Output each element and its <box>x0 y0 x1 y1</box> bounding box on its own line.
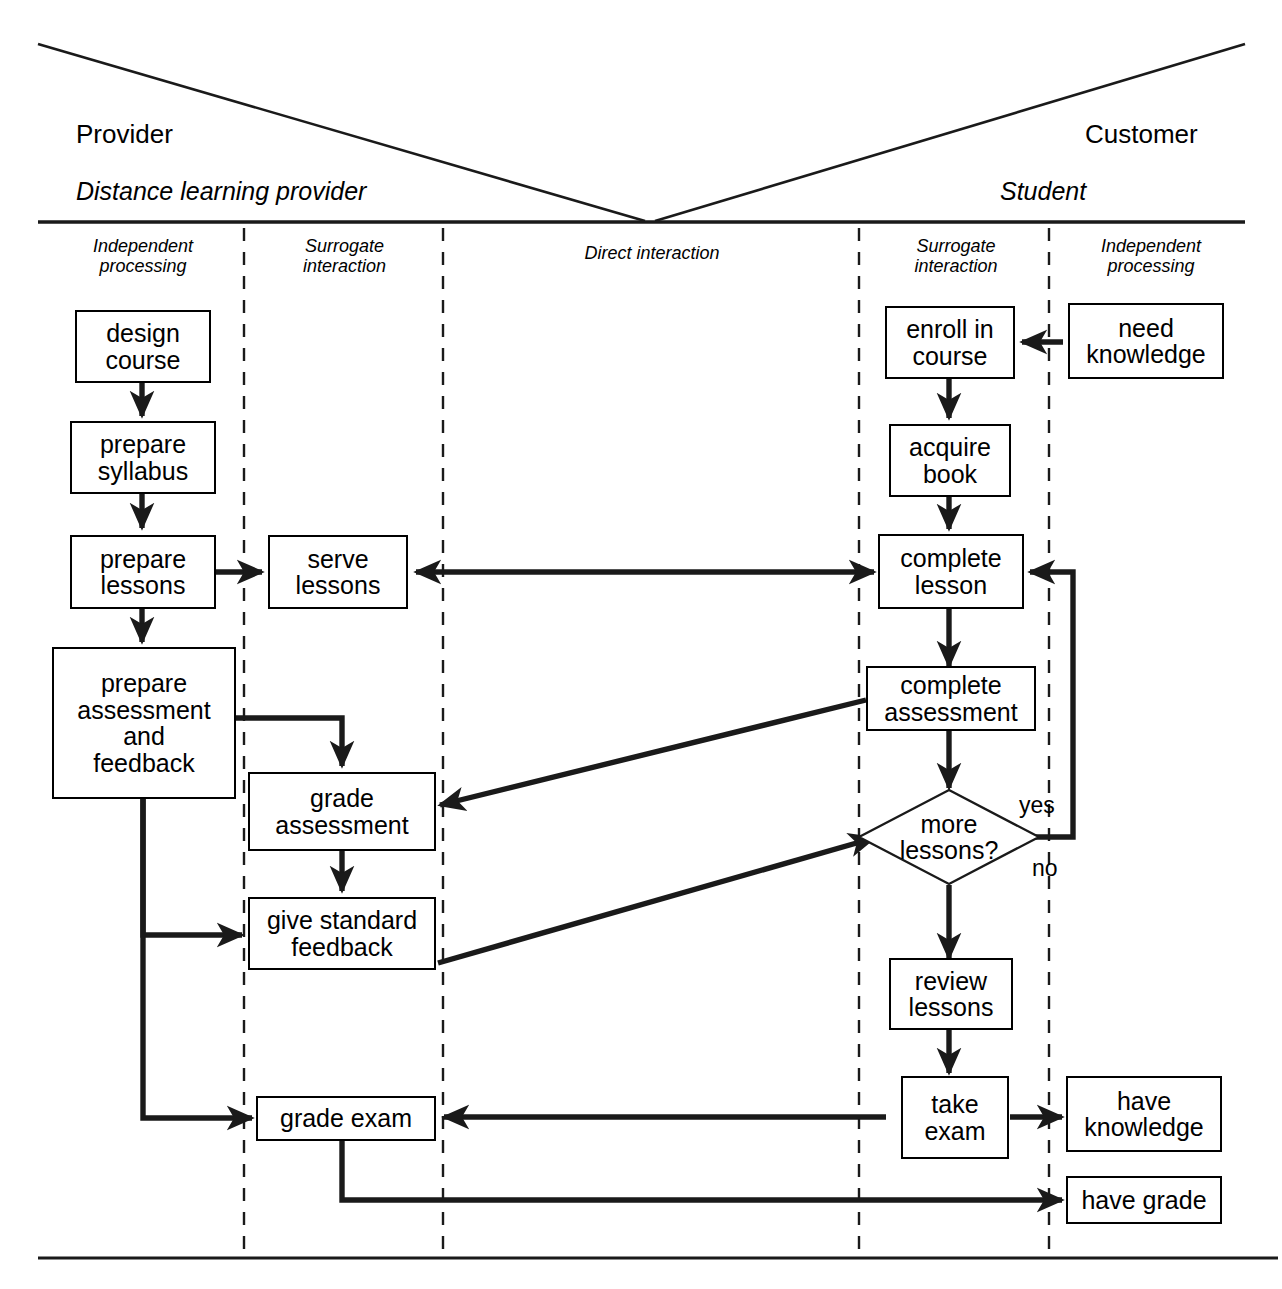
node-grade-assessment[interactable]: grade assessment <box>248 772 436 851</box>
node-give-standard-feedback[interactable]: give standard feedback <box>248 897 436 970</box>
node-grade-exam[interactable]: grade exam <box>256 1096 436 1141</box>
arrow-give-feedback-to-more-lessons <box>438 838 874 963</box>
node-complete-lesson[interactable]: complete lesson <box>878 534 1024 609</box>
actor-label-distance-learning-provider: Distance learning provider <box>76 177 366 205</box>
zone-label-customer-independent-processing: Independent processing <box>1056 236 1246 276</box>
actor-label-student: Student <box>1000 177 1086 205</box>
zone-label-direct-interaction: Direct interaction <box>452 243 852 263</box>
service-blueprint-diagram: Provider Customer Distance learning prov… <box>0 0 1282 1289</box>
node-have-knowledge[interactable]: have knowledge <box>1066 1076 1222 1152</box>
zone-label-provider-surrogate-interaction: Surrogate interaction <box>252 236 437 276</box>
zone-label-provider-independent-processing: Independent processing <box>48 236 238 276</box>
node-prepare-assessment-and-feedback[interactable]: prepare assessment and feedback <box>52 647 236 799</box>
edge-label-no: no <box>1032 855 1058 882</box>
node-have-grade[interactable]: have grade <box>1066 1176 1222 1224</box>
node-more-lessons-label: more lessons? <box>900 811 999 864</box>
arrow-prepare-assessment-to-give-feedback <box>143 799 242 935</box>
node-take-exam[interactable]: take exam <box>901 1076 1009 1159</box>
zone-label-customer-surrogate-interaction: Surrogate interaction <box>866 236 1046 276</box>
role-label-provider: Provider <box>76 120 173 149</box>
arrow-complete-assessment-to-grade-assessment <box>440 700 866 805</box>
node-serve-lessons[interactable]: serve lessons <box>268 535 408 609</box>
arrow-prepare-assessment-to-grade-assessment <box>236 718 342 766</box>
node-enroll-in-course[interactable]: enroll in course <box>885 306 1015 379</box>
node-review-lessons[interactable]: review lessons <box>889 958 1013 1030</box>
role-label-customer: Customer <box>1085 120 1198 149</box>
node-design-course[interactable]: design course <box>75 310 211 383</box>
node-need-knowledge[interactable]: need knowledge <box>1068 303 1224 379</box>
node-acquire-book[interactable]: acquire book <box>889 424 1011 497</box>
edge-label-yes: yes <box>1019 792 1055 819</box>
node-prepare-syllabus[interactable]: prepare syllabus <box>70 421 216 494</box>
arrow-prepare-assessment-to-grade-exam <box>143 799 252 1118</box>
node-complete-assessment[interactable]: complete assessment <box>866 666 1036 731</box>
node-more-lessons-decision[interactable]: more lessons? <box>857 788 1041 886</box>
node-prepare-lessons[interactable]: prepare lessons <box>70 535 216 609</box>
